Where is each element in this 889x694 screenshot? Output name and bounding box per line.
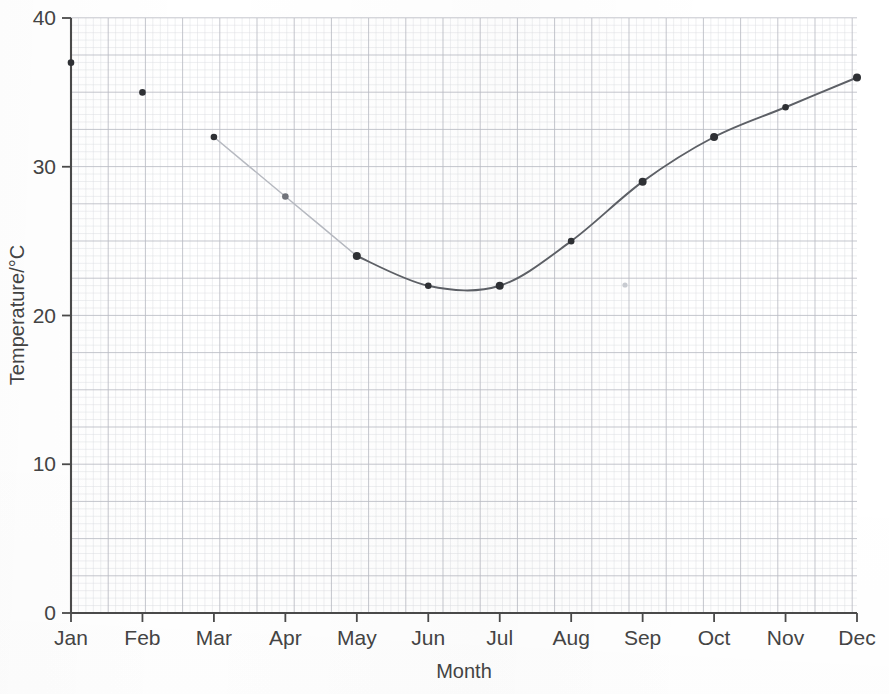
data-point-dec: [853, 74, 861, 82]
y-tick-label-40: 40: [33, 6, 56, 29]
data-point-nov: [782, 104, 789, 111]
x-axis-tick-labels: JanFebMarAprMayJunJulAugSepOctNovDec: [54, 626, 876, 649]
x-tick-label-jan: Jan: [54, 626, 88, 649]
data-point-aug: [568, 238, 575, 245]
x-axis-ticks: [71, 613, 857, 622]
data-point-sep: [639, 178, 647, 186]
data-point-oct: [710, 133, 718, 141]
x-axis-title: Month: [436, 660, 492, 682]
data-point-may: [353, 252, 361, 260]
y-tick-label-10: 10: [33, 452, 56, 475]
y-tick-label-30: 30: [33, 155, 56, 178]
y-tick-label-20: 20: [33, 304, 56, 327]
data-point-jun: [425, 282, 432, 289]
data-point-markers: [68, 59, 861, 289]
x-tick-label-aug: Aug: [552, 626, 589, 649]
chart-plot-area: 403020100 JanFebMarAprMayJunJulAugSepOct…: [0, 0, 889, 694]
y-axis-tick-labels: 403020100: [33, 6, 56, 624]
x-tick-label-jun: Jun: [411, 626, 445, 649]
x-tick-label-oct: Oct: [698, 626, 731, 649]
x-tick-label-mar: Mar: [196, 626, 232, 649]
data-point-jan: [68, 59, 75, 66]
y-tick-label-0: 0: [44, 601, 56, 624]
x-tick-label-apr: Apr: [269, 626, 302, 649]
stray-speck: [622, 282, 627, 287]
data-point-jul: [496, 282, 504, 290]
x-tick-label-dec: Dec: [838, 626, 875, 649]
x-tick-label-sep: Sep: [624, 626, 661, 649]
x-tick-label-may: May: [337, 626, 377, 649]
data-point-mar: [211, 134, 218, 141]
x-tick-label-jul: Jul: [486, 626, 513, 649]
temperature-month-chart: 403020100 JanFebMarAprMayJunJulAugSepOct…: [0, 0, 889, 694]
data-point-feb: [139, 89, 146, 96]
x-tick-label-nov: Nov: [767, 626, 805, 649]
x-tick-label-feb: Feb: [124, 626, 160, 649]
y-axis-title: Temperature/°C: [6, 245, 28, 385]
data-point-apr: [282, 193, 289, 200]
y-axis-ticks: [62, 18, 71, 613]
